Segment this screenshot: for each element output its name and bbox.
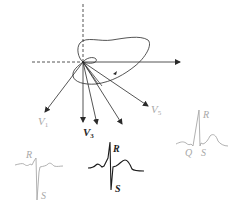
v1-s-label: S (41, 190, 46, 201)
v3-r-label: R (112, 143, 120, 154)
loop-direction-arrow (113, 71, 117, 75)
v5-s-label: S (201, 147, 206, 158)
v5-q-label: Q (185, 147, 193, 158)
v3-s-label: S (115, 183, 121, 194)
lead-v4-vector (83, 62, 122, 124)
v5-qrs-waveform (176, 110, 228, 146)
v1-r-label: R (25, 149, 32, 160)
lead-label-v1: V1 (38, 115, 49, 129)
lead-v1-vector (45, 62, 83, 112)
v1-qrs-waveform (15, 158, 63, 200)
v5-r-label: R (202, 109, 209, 120)
ecg-lead-diagram: V1 V3 V5 R S R S R Q S (0, 0, 235, 211)
lead-label-v3: V3 (83, 126, 94, 140)
lead-label-v5: V5 (151, 103, 162, 117)
